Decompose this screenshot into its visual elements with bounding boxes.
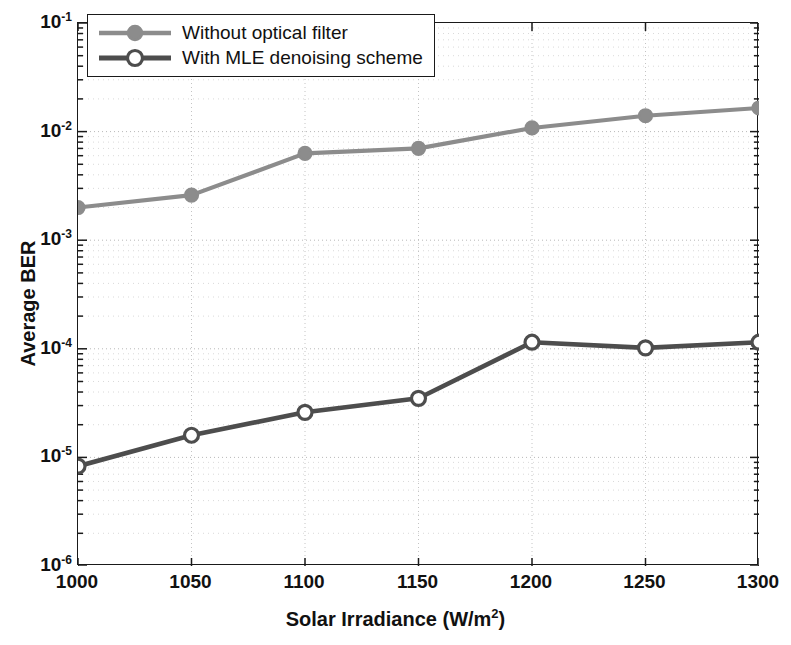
y-tick-label--5: 10-5: [0, 445, 72, 465]
y-tick-label--1: 10-1: [0, 11, 72, 31]
legend: Without optical filter With MLE denoisin…: [87, 14, 435, 77]
legend-swatch-series-0: [97, 22, 173, 44]
x-tick-label-1200: 1200: [510, 572, 552, 591]
y-axis-title: Average BER: [17, 184, 40, 424]
x-tick-label-1000: 1000: [56, 572, 98, 591]
x-tick-label-1150: 1150: [397, 572, 438, 591]
legend-item-with-mle-denoising-scheme: With MLE denoising scheme: [97, 45, 423, 70]
x-axis-tick-labels: 1000105011001150120012501300: [0, 572, 791, 598]
x-tick-label-1050: 1050: [169, 572, 211, 591]
x-tick-label-1250: 1250: [623, 572, 665, 591]
legend-swatch-series-1: [97, 47, 173, 69]
ber-vs-irradiance-figure: 10-110-210-310-410-510-6 100010501100115…: [0, 0, 791, 645]
legend-label-series-0: Without optical filter: [182, 23, 348, 42]
legend-label-series-1: With MLE denoising scheme: [182, 48, 423, 67]
y-tick-label--2: 10-2: [0, 120, 72, 140]
x-tick-label-1100: 1100: [283, 572, 324, 591]
data-series-layer: [78, 23, 759, 566]
x-axis-title: Solar Irradiance (W/m2): [0, 606, 791, 631]
legend-item-without-optical-filter: Without optical filter: [97, 20, 423, 45]
plot-area: [77, 22, 758, 565]
x-tick-label-1300: 1300: [737, 572, 779, 591]
